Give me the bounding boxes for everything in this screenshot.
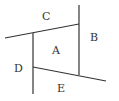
region-label-d: D xyxy=(14,62,23,75)
region-diagram: A B C D E xyxy=(0,0,119,101)
region-label-b: B xyxy=(90,31,98,44)
top-line xyxy=(5,24,79,38)
region-label-c: C xyxy=(42,10,50,23)
region-label-e: E xyxy=(57,82,65,95)
bottom-line xyxy=(33,67,106,81)
region-label-a: A xyxy=(51,44,61,57)
